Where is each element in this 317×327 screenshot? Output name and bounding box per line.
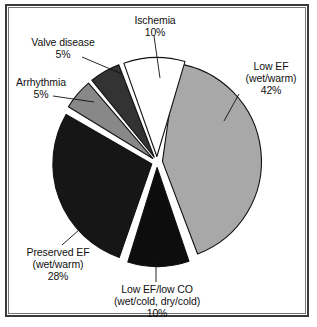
label-ischemia: Ischemia 10% <box>112 14 198 38</box>
label-low-ef: Low EF (wet/warm) 42% <box>232 60 310 97</box>
label-preserved-ef-percent: 28% <box>8 270 108 282</box>
label-arrhythmia-name: Arrhythmia <box>4 76 78 88</box>
label-low-ef-percent: 42% <box>232 84 310 96</box>
pie-slices-group <box>53 58 262 267</box>
label-preserved-ef-name: Preserved EF <box>8 246 108 258</box>
label-low-ef-low-co: Low EF/low CO (wet/cold, dry/cold) 10% <box>95 283 219 320</box>
label-arrhythmia: Arrhythmia 5% <box>4 76 78 100</box>
label-low-ef-low-co-percent: 10% <box>95 307 219 319</box>
label-preserved-ef-condition: (wet/warm) <box>8 258 108 270</box>
label-valve-disease-percent: 5% <box>20 48 106 60</box>
label-preserved-ef: Preserved EF (wet/warm) 28% <box>8 246 108 283</box>
label-low-ef-low-co-condition: (wet/cold, dry/cold) <box>95 295 219 307</box>
label-low-ef-name: Low EF <box>232 60 310 72</box>
label-ischemia-name: Ischemia <box>112 14 198 26</box>
label-valve-disease-name: Valve disease <box>20 36 106 48</box>
pie-chart-figure: Ischemia 10% Valve disease 5% Arrhythmia… <box>0 0 317 327</box>
label-arrhythmia-percent: 5% <box>4 88 78 100</box>
label-low-ef-condition: (wet/warm) <box>232 72 310 84</box>
label-valve-disease: Valve disease 5% <box>20 36 106 60</box>
label-low-ef-low-co-name: Low EF/low CO <box>95 283 219 295</box>
label-ischemia-percent: 10% <box>112 26 198 38</box>
